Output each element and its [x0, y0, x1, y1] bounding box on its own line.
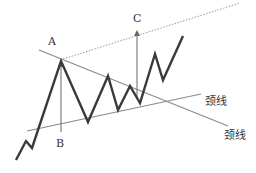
label-a: A: [48, 36, 56, 47]
diagram-canvas: [0, 0, 256, 173]
label-c: C: [133, 13, 141, 24]
label-neckline-lower: 颈线: [224, 130, 246, 141]
triangle-pattern-diagram: A B C 颈线 颈线: [0, 0, 256, 173]
label-neckline-upper: 颈线: [205, 96, 227, 107]
label-b: B: [56, 138, 64, 149]
upper-trendline: [39, 50, 228, 126]
dotted-projection-line: [63, 3, 240, 59]
